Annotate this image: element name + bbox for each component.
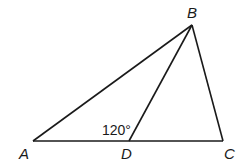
segment-bc: [192, 25, 223, 141]
point-label-d: D: [121, 145, 132, 162]
point-label-c: C: [224, 145, 235, 162]
point-label-b: B: [187, 4, 197, 21]
point-label-a: A: [18, 145, 29, 162]
angle-label-adb: 120°: [102, 122, 131, 138]
segment-bd: [129, 25, 192, 141]
triangle-diagram: B A D C 120°: [0, 0, 245, 166]
